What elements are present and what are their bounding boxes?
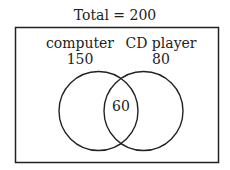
computer-label: computer: [40, 35, 120, 51]
cd-player-label: CD player: [120, 35, 202, 51]
intersection-count: 60: [101, 98, 141, 114]
cd-player-count: 80: [120, 51, 202, 67]
venn-diagram: [0, 0, 230, 170]
computer-count: 150: [40, 51, 120, 67]
